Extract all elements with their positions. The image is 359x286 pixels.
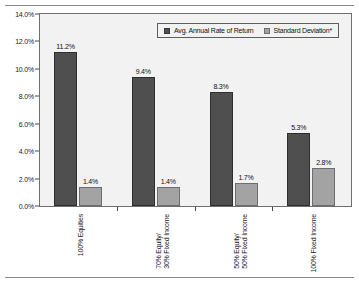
bar-value-label: 1.7% xyxy=(238,174,253,181)
bar-value-label: 11.2% xyxy=(56,43,74,50)
y-axis-tick-label: 0.0% xyxy=(19,203,34,210)
x-axis-category-label-line: 70% Equity/ xyxy=(155,214,163,269)
bar-return xyxy=(210,92,233,206)
y-axis: 0.0%2.0%4.0%6.0%8.0%10.0%12.0%14.0% xyxy=(0,13,39,207)
legend-swatch-icon xyxy=(164,28,170,34)
x-axis-category-label-line: 50% Fixed Income xyxy=(241,214,249,269)
x-axis-category-label-text: 50% Equity/50% Fixed Income xyxy=(233,214,249,269)
bottom-divider-rule xyxy=(5,277,354,278)
legend-label: Avg. Annual Rate of Return xyxy=(174,27,254,34)
top-divider-rule xyxy=(5,5,354,6)
legend-swatch-icon xyxy=(264,28,270,34)
bar-return xyxy=(54,52,77,206)
x-axis-category-label-line: 100% Equities xyxy=(77,214,85,256)
x-axis-category-label-line: 50% Equity/ xyxy=(233,214,241,269)
bar-stddev xyxy=(235,183,258,206)
bar-value-label: 9.4% xyxy=(136,68,151,75)
bar-value-label: 2.8% xyxy=(316,159,331,166)
legend-item: Avg. Annual Rate of Return xyxy=(164,27,254,34)
y-axis-tick-label: 12.0% xyxy=(15,38,34,45)
bar-return xyxy=(287,133,310,206)
bar-stddev xyxy=(79,187,102,206)
bar-value-label: 1.4% xyxy=(161,178,176,185)
legend-label: Standard Deviation* xyxy=(274,27,332,34)
x-axis-category-label-line: 30% Fixed Income xyxy=(163,214,171,269)
x-axis-category-label-text: 70% Equity/30% Fixed Income xyxy=(155,214,171,269)
chart-figure: 0.0%2.0%4.0%6.0%8.0%10.0%12.0%14.0% 11.2… xyxy=(0,0,359,286)
bar-value-label: 8.3% xyxy=(213,83,228,90)
x-axis-category-label-line: 100% Fixed Income xyxy=(310,214,318,272)
plot-frame: 11.2%1.4%9.4%1.4%8.3%1.7%5.3%2.8% xyxy=(39,13,352,207)
bar-return xyxy=(132,77,155,206)
chart-legend: Avg. Annual Rate of ReturnStandard Devia… xyxy=(157,23,339,38)
x-axis-category-label-text: 100% Equities xyxy=(77,214,85,256)
y-axis-tick-label: 2.0% xyxy=(19,175,34,182)
y-axis-tick-label: 6.0% xyxy=(19,120,34,127)
y-axis-tick-label: 8.0% xyxy=(19,93,34,100)
legend-item: Standard Deviation* xyxy=(264,27,332,34)
x-axis-tick-mark xyxy=(272,207,273,211)
x-axis-tick-mark xyxy=(117,207,118,211)
bar-value-label: 5.3% xyxy=(291,124,306,131)
x-axis-tick-mark xyxy=(195,207,196,211)
bar-stddev xyxy=(312,168,335,206)
y-axis-tick-label: 10.0% xyxy=(15,65,34,72)
plot-area: 11.2%1.4%9.4%1.4%8.3%1.7%5.3%2.8% xyxy=(40,14,351,206)
y-axis-tick-label: 4.0% xyxy=(19,148,34,155)
bar-stddev xyxy=(157,187,180,206)
x-axis-labels: 100% Equities70% Equity/30% Fixed Income… xyxy=(39,212,352,274)
bar-value-label: 1.4% xyxy=(83,178,98,185)
x-axis-category-label-text: 100% Fixed Income xyxy=(310,214,318,272)
y-axis-tick-label: 14.0% xyxy=(15,11,34,18)
